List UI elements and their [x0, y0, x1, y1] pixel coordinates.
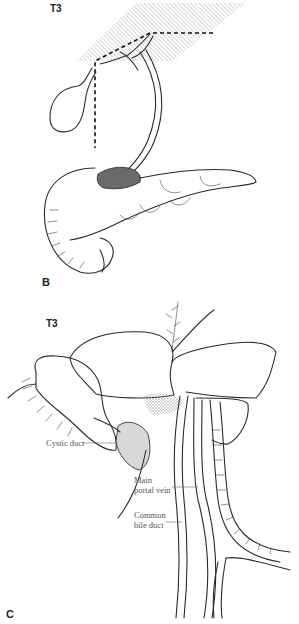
common-bile-duct-c — [174, 396, 180, 618]
panel-c: T3 — [0, 300, 299, 624]
annotation-portal-vein-line2: portal vein — [134, 485, 171, 495]
annotation-bile-duct-line2: bile duct — [134, 520, 166, 530]
tumor — [97, 167, 140, 189]
liver-lobe-right — [172, 342, 276, 398]
annotation-bile-duct-line1: Common — [134, 510, 166, 520]
annotation-common-bile-duct: Common bile duct — [134, 510, 166, 530]
liver-plane-hatch — [76, 3, 246, 61]
gallbladder-c — [35, 356, 117, 450]
annotation-main-portal-vein: Main portal vein — [134, 475, 171, 495]
annotation-portal-vein-line1: Main — [134, 475, 171, 485]
gallbladder — [50, 68, 96, 132]
main-portal-vein — [194, 398, 208, 618]
panel-letter-b: B — [42, 276, 50, 288]
cystic-duct-cluster — [116, 422, 150, 470]
common-bile-duct — [110, 52, 156, 185]
panel-b-illustration — [0, 0, 299, 300]
panel-b: T3 B — [0, 0, 299, 300]
panel-letter-c: C — [6, 608, 14, 620]
annotation-cystic-duct: Cystic duct — [46, 438, 84, 448]
panel-c-illustration — [0, 300, 299, 624]
